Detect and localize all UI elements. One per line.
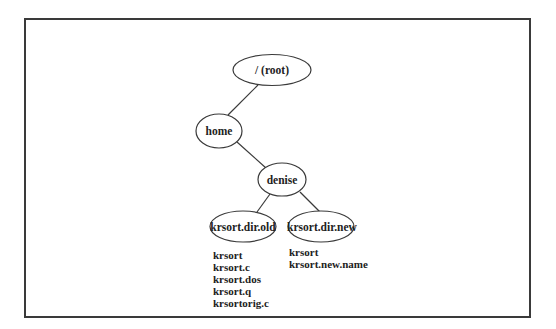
file-item: krsort bbox=[213, 249, 269, 261]
node-krsort-dir-new-label: krsort.dir.new bbox=[287, 221, 358, 233]
file-item: krsort.q bbox=[213, 285, 269, 297]
node-home-label: home bbox=[206, 125, 233, 137]
node-denise: denise bbox=[258, 163, 306, 196]
file-item: krsort.c bbox=[213, 261, 269, 273]
node-krsort-dir-new: krsort.dir.new bbox=[287, 211, 358, 242]
file-item: krsort.new.name bbox=[289, 258, 368, 270]
file-item: krsort bbox=[289, 246, 368, 258]
edge-denise-new bbox=[300, 192, 320, 212]
node-home: home bbox=[196, 114, 242, 148]
file-list-krsort-dir-new: krsort krsort.new.name bbox=[289, 246, 368, 270]
node-root: / (root) bbox=[233, 55, 311, 86]
node-denise-label: denise bbox=[267, 174, 298, 186]
file-item: krsortorig.c bbox=[213, 297, 269, 309]
edge-home-denise bbox=[237, 142, 266, 168]
edge-denise-old bbox=[257, 194, 270, 212]
file-item: krsort.dos bbox=[213, 273, 269, 285]
node-root-label: / (root) bbox=[254, 64, 289, 77]
node-krsort-dir-old: krsort.dir.old bbox=[210, 211, 276, 242]
file-list-krsort-dir-old: krsort krsort.c krsort.dos krsort.q krso… bbox=[213, 249, 269, 309]
directory-tree: / (root) home denise krsort.dir.old krso… bbox=[0, 0, 556, 329]
node-krsort-dir-old-label: krsort.dir.old bbox=[210, 221, 276, 233]
edge-root-home bbox=[228, 85, 258, 115]
